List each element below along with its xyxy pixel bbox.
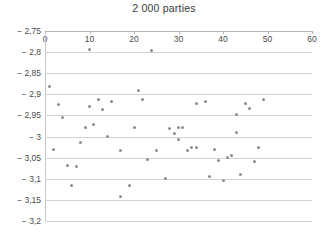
y-tick-label: − 2,9: [22, 89, 41, 99]
data-point: [239, 173, 242, 176]
data-point: [61, 116, 64, 119]
data-point: [155, 149, 158, 152]
data-point: [146, 158, 149, 161]
data-point: [208, 175, 211, 178]
y-tick-label: − 3,15: [17, 195, 41, 205]
data-point: [181, 126, 184, 129]
data-point: [141, 98, 144, 101]
data-point: [244, 102, 247, 105]
data-point: [177, 138, 180, 141]
gridline-y: [45, 221, 312, 222]
data-point: [75, 165, 78, 168]
data-point: [88, 48, 91, 51]
data-point: [70, 184, 73, 187]
data-point: [137, 89, 140, 92]
scatter-chart: 2 000 parties − 2,75− 2,8− 2,85− 2,9− 2,…: [0, 0, 328, 236]
data-point: [190, 146, 193, 149]
data-point: [101, 108, 104, 111]
data-point: [248, 107, 251, 110]
data-point: [226, 156, 229, 159]
data-point: [79, 141, 82, 144]
y-tick-label: − 2,95: [17, 110, 41, 120]
x-tick-mark: [312, 31, 313, 34]
gridline-y: [45, 115, 312, 116]
data-point: [195, 102, 198, 105]
data-point: [204, 100, 207, 103]
data-point: [119, 195, 122, 198]
data-point: [88, 105, 91, 108]
y-tick-label: − 2,85: [17, 68, 41, 78]
data-point: [217, 159, 220, 162]
gridline-y: [45, 137, 312, 138]
data-point: [84, 126, 87, 129]
gridline-y: [45, 52, 312, 53]
gridline-y: [45, 158, 312, 159]
y-tick-label: − 3,05: [17, 153, 41, 163]
y-tick-label: − 3,1: [22, 174, 41, 184]
data-point: [52, 148, 55, 151]
data-point: [110, 100, 113, 103]
data-point: [97, 98, 100, 101]
gridline-y: [45, 73, 312, 74]
plot-area: [45, 31, 312, 221]
data-point: [177, 126, 180, 129]
data-point: [164, 177, 167, 180]
data-point: [230, 154, 233, 157]
y-tick-label: − 2,8: [22, 47, 41, 57]
data-point: [186, 149, 189, 152]
data-point: [257, 146, 260, 149]
data-point: [262, 98, 265, 101]
data-point: [168, 127, 171, 130]
gridline-y: [45, 179, 312, 180]
data-point: [235, 113, 238, 116]
data-point: [222, 179, 225, 182]
data-point: [119, 149, 122, 152]
data-point: [57, 103, 60, 106]
data-point: [66, 164, 69, 167]
data-point: [253, 160, 256, 163]
data-point: [173, 132, 176, 135]
y-tick-label: − 3: [29, 132, 41, 142]
data-point: [133, 126, 136, 129]
data-point: [92, 123, 95, 126]
data-point: [106, 135, 109, 138]
data-point: [213, 148, 216, 151]
data-point: [128, 184, 131, 187]
gridline-y: [45, 31, 312, 32]
data-point: [195, 146, 198, 149]
chart-title: 2 000 parties: [0, 2, 328, 14]
gridline-y: [45, 200, 312, 201]
gridline-y: [45, 94, 312, 95]
data-point: [235, 131, 238, 134]
y-tick-label: − 3,2: [22, 216, 41, 226]
data-point: [48, 85, 51, 88]
